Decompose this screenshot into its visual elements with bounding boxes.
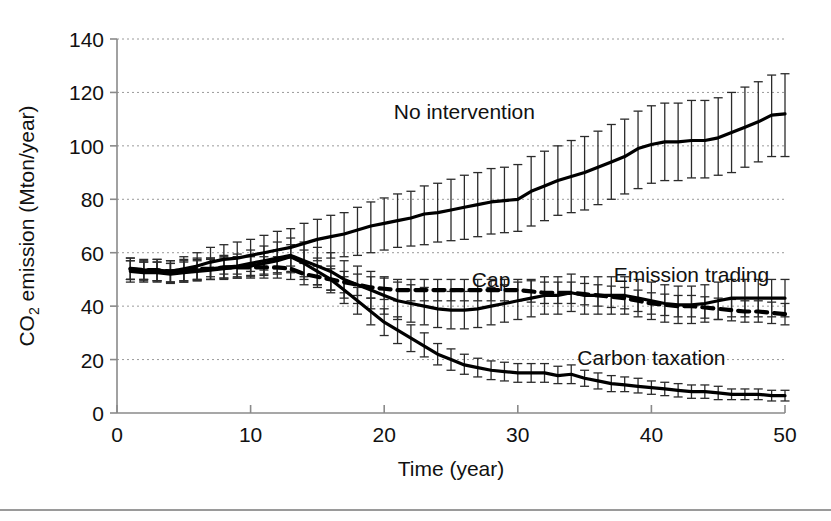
- x-tick-label-30: 30: [506, 423, 529, 446]
- x-tick-label-0: 0: [111, 423, 123, 446]
- y-tick-label-60: 60: [81, 242, 104, 265]
- x-axis-title: Time (year): [398, 457, 505, 480]
- x-tick-label-50: 50: [773, 423, 796, 446]
- y-tick-label-120: 120: [69, 81, 104, 104]
- series-label-cap: Cap: [472, 268, 511, 291]
- x-tick-label-20: 20: [373, 423, 396, 446]
- series-label-no-intervention: No intervention: [394, 100, 535, 123]
- y-axis-title: CO2 emission (Mton/year): [15, 105, 42, 346]
- figure-container: 02040608010012014001020304050 No interve…: [0, 0, 831, 521]
- footer-divider-rule: [0, 509, 831, 511]
- series-label-emission-trading: Emission trading: [614, 263, 769, 286]
- series-line-no-intervention: [130, 114, 785, 272]
- tick-labels: 02040608010012014001020304050: [69, 28, 797, 446]
- y-tick-label-100: 100: [69, 135, 104, 158]
- y-tick-label-140: 140: [69, 28, 104, 51]
- y-tick-label-0: 0: [92, 402, 104, 425]
- x-tick-label-40: 40: [640, 423, 663, 446]
- series-label-carbon-taxation: Carbon taxation: [577, 346, 725, 369]
- co2-emission-line-chart: 02040608010012014001020304050 No interve…: [0, 0, 831, 521]
- y-tick-label-40: 40: [81, 295, 104, 318]
- y-tick-label-80: 80: [81, 188, 104, 211]
- x-tick-label-10: 10: [239, 423, 262, 446]
- y-tick-label-20: 20: [81, 349, 104, 372]
